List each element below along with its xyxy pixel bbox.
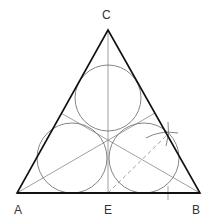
circle-left [37,123,107,193]
bisector-from-b [61,113,200,193]
label-b: B [192,203,200,217]
triangle-abc [17,30,200,193]
dashed-construction-line [108,134,168,193]
construction-arc-1 [146,132,178,138]
label-a: A [14,203,22,217]
geometry-diagram: C A E B [0,0,213,224]
label-e: E [104,203,112,217]
label-c: C [102,8,111,22]
